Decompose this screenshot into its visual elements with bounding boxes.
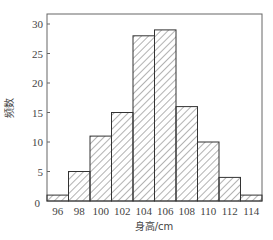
x-tick-label: 100 <box>93 205 110 217</box>
x-tick-label: 102 <box>114 205 131 217</box>
x-tick-label: 110 <box>200 205 217 217</box>
y-tick-label: 15 <box>32 107 44 119</box>
histogram-bar <box>198 142 220 201</box>
x-tick-label: 98 <box>74 205 86 217</box>
x-axis: 9698100102104106108110112114 <box>52 205 260 217</box>
histogram-bar <box>47 195 69 201</box>
histogram-chart: 051015202530 969810010210410610811011211… <box>0 0 273 240</box>
histogram-bar <box>112 113 134 202</box>
histogram-bar <box>176 107 198 201</box>
x-tick-label: 96 <box>52 205 64 217</box>
y-tick-label: 25 <box>32 48 44 60</box>
y-tick-label: 5 <box>38 166 44 178</box>
y-axis-title: 频数 <box>3 98 15 118</box>
y-tick-label: 30 <box>32 18 44 30</box>
y-tick-label: 10 <box>32 136 44 148</box>
histogram-bar <box>219 177 241 201</box>
x-tick-label: 108 <box>179 205 196 217</box>
histogram-bars <box>47 30 262 201</box>
histogram-bar <box>241 195 263 201</box>
x-tick-label: 104 <box>136 205 153 217</box>
histogram-bar <box>90 136 112 201</box>
x-axis-title: 身高/cm <box>135 220 174 232</box>
x-tick-label: 112 <box>222 205 238 217</box>
x-tick-label: 114 <box>243 205 260 217</box>
x-tick-label: 106 <box>157 205 174 217</box>
histogram-bar <box>155 30 177 201</box>
y-tick-label: 20 <box>32 77 44 89</box>
histogram-bar <box>133 36 155 201</box>
y-tick-label: 0 <box>35 197 41 209</box>
histogram-bar <box>69 172 91 202</box>
